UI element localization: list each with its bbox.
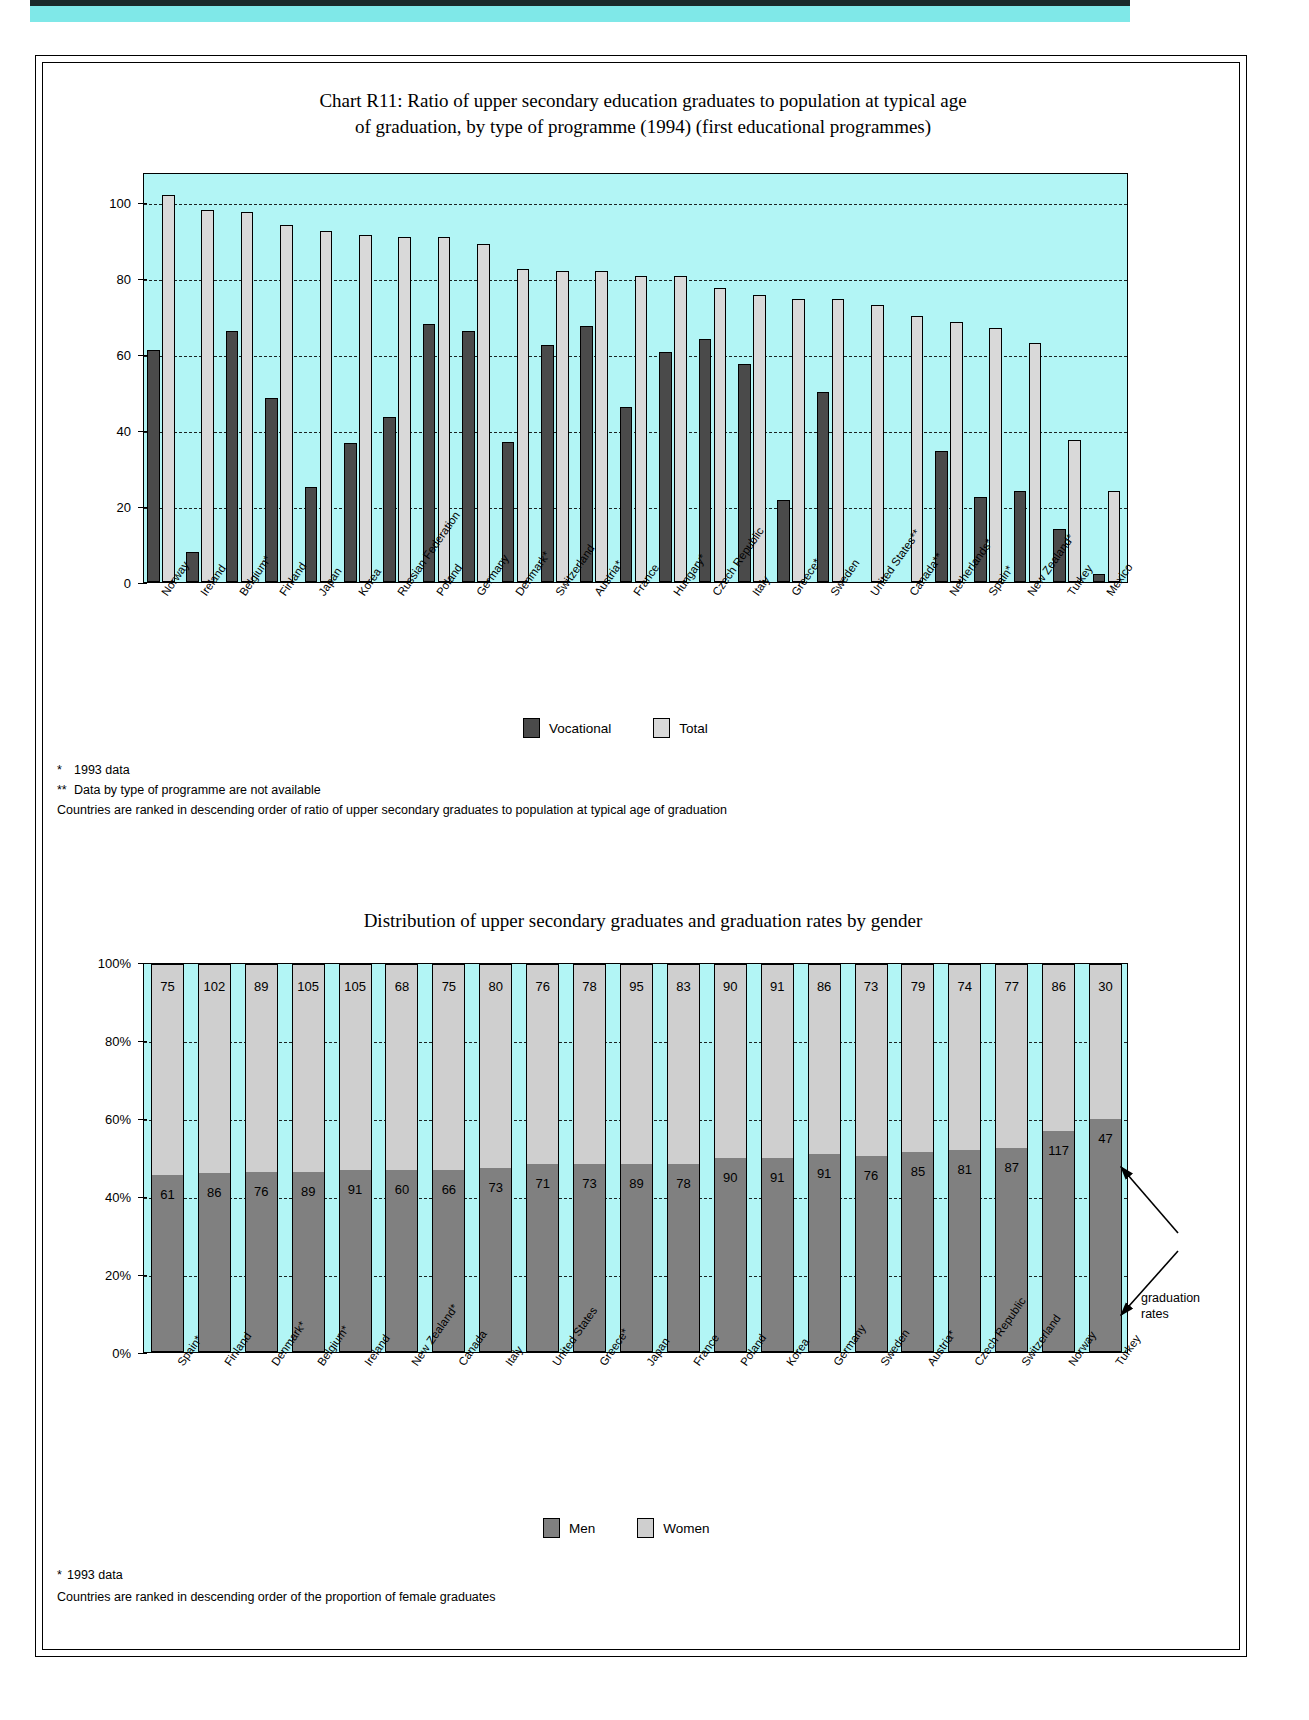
stacked-bar: 7873 [573, 964, 606, 1352]
bar-total [950, 322, 963, 582]
y-axis-tick-label: 20 [85, 500, 131, 515]
y-axis-tick-label: 80 [85, 272, 131, 287]
bar-vocational [620, 407, 633, 582]
segment-women-value: 77 [996, 979, 1027, 994]
stacked-bar: 7566 [432, 964, 465, 1352]
y-axis-tick-mark [138, 583, 147, 584]
chart-r11-note-1-text: 1993 data [74, 763, 130, 777]
stacked-bar: 7671 [526, 964, 559, 1352]
segment-women-value: 86 [809, 979, 840, 994]
stacked-bar: 8691 [808, 964, 841, 1352]
chart-r11-note-1: *1993 data [57, 763, 130, 777]
segment-men-value: 91 [809, 1166, 840, 1181]
bar-total [162, 195, 175, 582]
segment-men-value: 87 [996, 1160, 1027, 1175]
bar-total [1029, 343, 1042, 582]
bar-vocational [541, 345, 554, 582]
y-axis-tick-label: 40 [85, 424, 131, 439]
segment-men-value: 61 [152, 1187, 183, 1202]
chart-r11-note-2-text: Data by type of programme are not availa… [74, 783, 321, 797]
segment-men: 78 [668, 1164, 699, 1351]
bar-total [320, 231, 333, 582]
segment-women-value: 95 [621, 979, 652, 994]
segment-women-value: 90 [715, 979, 746, 994]
chart-gender-title: Distribution of upper secondary graduate… [163, 908, 1123, 934]
segment-women-value: 105 [340, 979, 371, 994]
bar-vocational [265, 398, 278, 582]
chart-r11-note-3-text: Countries are ranked in descending order… [57, 803, 727, 817]
page-border-inner: Chart R11: Ratio of upper secondary educ… [42, 62, 1240, 1650]
bar-total [398, 237, 411, 582]
stacked-bar: 10589 [292, 964, 325, 1352]
stacked-bar: 86117 [1042, 964, 1075, 1352]
segment-women: 90 [715, 965, 746, 1158]
bar-total [556, 271, 569, 582]
bar-vocational [344, 443, 357, 582]
legend-label-men: Men [569, 1521, 595, 1536]
y-axis-tick-label: 0% [75, 1346, 131, 1361]
stacked-bar: 7376 [855, 964, 888, 1352]
y-axis-tick-label: 100 [85, 196, 131, 211]
segment-men: 76 [856, 1156, 887, 1351]
segment-men: 76 [246, 1172, 277, 1351]
segment-men: 81 [949, 1150, 980, 1351]
segment-women: 30 [1090, 965, 1121, 1119]
segment-women: 95 [621, 965, 652, 1164]
segment-women-value: 73 [856, 979, 887, 994]
segment-women-value: 30 [1090, 979, 1121, 994]
stacked-bar: 9191 [761, 964, 794, 1352]
segment-men-value: 76 [246, 1184, 277, 1199]
bar-total [280, 225, 293, 582]
stacked-bar: 10591 [339, 964, 372, 1352]
segment-men: 89 [621, 1164, 652, 1351]
segment-men: 90 [715, 1158, 746, 1351]
y-axis-tick-mark [138, 1197, 147, 1198]
chart-r11-note-2-marker: ** [57, 783, 74, 797]
gridline [144, 204, 1127, 205]
legend-item-vocational: Vocational [523, 718, 611, 738]
segment-women-value: 75 [433, 979, 464, 994]
bar-vocational [462, 331, 475, 582]
chart-r11-note-2: **Data by type of programme are not avai… [57, 783, 321, 797]
legend-item-men: Men [543, 1518, 595, 1538]
bar-total [674, 276, 687, 582]
bar-total [792, 299, 805, 582]
y-axis-tick-label: 60 [85, 348, 131, 363]
segment-men-value: 89 [621, 1176, 652, 1191]
header-band-edge [30, 0, 1130, 6]
legend-label-vocational: Vocational [549, 721, 611, 736]
legend-swatch-men [543, 1518, 560, 1538]
chart-r11-area: 020406080100NorwayIrelandBelgium*Finland… [43, 63, 1241, 763]
y-axis-tick-label: 100% [75, 956, 131, 971]
stacked-bar: 7561 [151, 964, 184, 1352]
annotation-arrows [1103, 1143, 1223, 1343]
bar-total [595, 271, 608, 582]
segment-men: 91 [762, 1158, 793, 1351]
stacked-bar: 7985 [901, 964, 934, 1352]
segment-women-value: 105 [293, 979, 324, 994]
segment-women-value: 68 [386, 979, 417, 994]
bar-total [832, 299, 845, 582]
legend-label-women: Women [663, 1521, 709, 1536]
segment-men-value: 90 [715, 1170, 746, 1185]
chart-gender-note-1-marker: * [57, 1568, 67, 1582]
chart-gender-plot: 7561102868976105891059168607566807376717… [143, 963, 1128, 1353]
segment-men: 60 [386, 1170, 417, 1351]
chart-gender-note-1: *1993 data [57, 1568, 123, 1582]
segment-men-value: 91 [340, 1182, 371, 1197]
legend-label-total: Total [679, 721, 708, 736]
y-axis-tick-label: 20% [75, 1268, 131, 1283]
segment-men-value: 86 [199, 1185, 230, 1200]
segment-men: 73 [480, 1168, 511, 1351]
segment-men-value: 117 [1043, 1143, 1074, 1158]
segment-men: 91 [809, 1154, 840, 1351]
segment-women: 77 [996, 965, 1027, 1148]
stacked-bar: 6860 [385, 964, 418, 1352]
bar-vocational [383, 417, 396, 582]
y-axis-tick-mark [138, 1041, 147, 1042]
legend-swatch-women [637, 1518, 654, 1538]
segment-women: 74 [949, 965, 980, 1150]
y-axis-tick-mark [138, 355, 147, 356]
legend-swatch-vocational [523, 718, 540, 738]
segment-women-value: 76 [527, 979, 558, 994]
